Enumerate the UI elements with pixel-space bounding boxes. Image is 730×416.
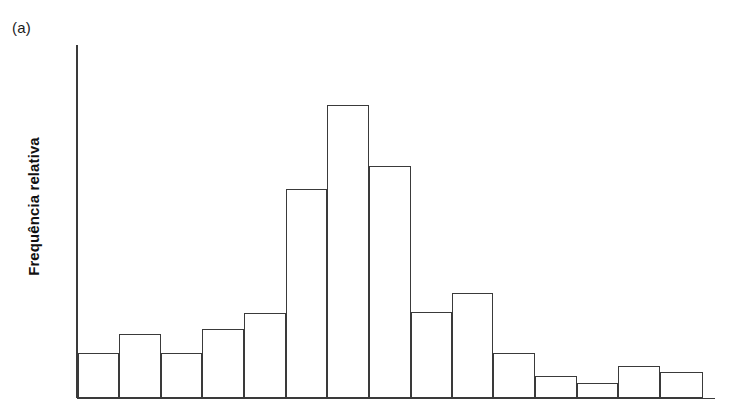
plot-area: [0, 0, 730, 416]
histogram-bar: [619, 367, 660, 398]
histogram-bar: [494, 354, 535, 398]
histogram-bar: [578, 384, 618, 398]
histogram-bar: [412, 313, 452, 398]
figure-root: (a) Frequência relativa: [0, 0, 730, 416]
histogram-bar: [287, 190, 327, 398]
histogram-bar: [79, 354, 119, 398]
histogram-bar: [203, 330, 244, 398]
histogram-bar: [328, 106, 369, 398]
histogram-bar: [536, 377, 577, 398]
histogram-bars: [79, 106, 703, 398]
histogram-bar: [661, 373, 703, 398]
histogram-bar: [245, 314, 286, 398]
histogram-chart: [0, 0, 730, 416]
histogram-bar: [453, 294, 493, 398]
histogram-bar: [162, 354, 202, 398]
histogram-bar: [370, 167, 411, 398]
histogram-bar: [120, 335, 161, 398]
